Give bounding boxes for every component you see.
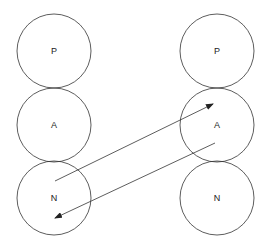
diagram-canvas: P A N P A N — [0, 0, 271, 250]
node-label: A — [51, 120, 57, 130]
right-node-p: P — [180, 14, 254, 88]
node-label: N — [214, 193, 221, 203]
right-column: P A N — [180, 14, 254, 235]
right-node-a: A — [180, 88, 254, 162]
node-label: P — [214, 46, 220, 56]
node-label: P — [51, 46, 57, 56]
left-node-n: N — [17, 161, 91, 235]
node-label: A — [214, 120, 220, 130]
node-label: N — [51, 193, 58, 203]
left-column: P A N — [17, 14, 91, 235]
right-node-n: N — [180, 161, 254, 235]
left-node-p: P — [17, 14, 91, 88]
arrow-a-to-n — [55, 143, 215, 218]
left-node-a: A — [17, 88, 91, 162]
arrow-n-to-a — [55, 104, 213, 181]
